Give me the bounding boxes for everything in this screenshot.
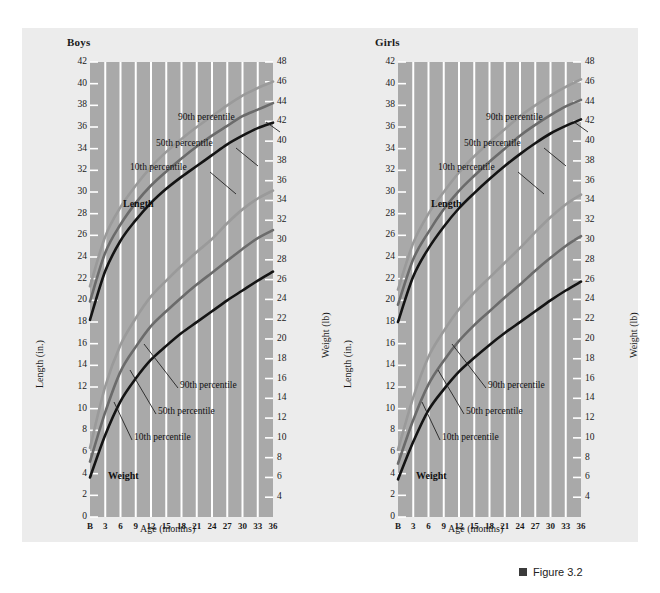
y-tick-left: 20 <box>63 294 87 304</box>
y-tick-right: 38 <box>277 155 301 165</box>
y-tick-right: 12 <box>585 412 609 422</box>
annotation-weight-series: Weight <box>416 470 447 481</box>
y-tick-left: 22 <box>63 273 87 283</box>
y-tick-left: 24 <box>63 251 87 261</box>
figure-caption: Figure 3.2 <box>519 566 583 578</box>
y-tick-right: 30 <box>585 234 609 244</box>
y-tick-left: 14 <box>63 359 87 369</box>
plot-area-boys <box>68 58 295 525</box>
annotation-length-p50: 50th percentile <box>464 138 521 148</box>
y-tick-left: 36 <box>371 121 395 131</box>
y-tick-left: 12 <box>371 381 395 391</box>
y-tick-right: 4 <box>277 491 301 501</box>
y-tick-right: 12 <box>277 412 301 422</box>
y-tick-right: 40 <box>585 135 609 145</box>
y-tick-left: 22 <box>371 273 395 283</box>
plot-svg-boys <box>68 58 295 525</box>
annotation-length-p50: 50th percentile <box>156 138 213 148</box>
y-axis-label-left-girls: Length (in.) <box>342 340 353 388</box>
y-tick-right: 14 <box>277 392 301 402</box>
y-tick-right: 42 <box>277 115 301 125</box>
y-tick-left: 0 <box>371 511 395 521</box>
y-tick-left: 6 <box>371 446 395 456</box>
y-tick-right: 10 <box>277 432 301 442</box>
y-tick-left: 36 <box>63 121 87 131</box>
y-tick-right: 22 <box>585 313 609 323</box>
annotation-length-p90: 90th percentile <box>178 112 235 122</box>
panel-title-girls: Girls <box>375 36 400 48</box>
chart-panel-girls: Girls Length (in.) Weight (lb) Age (mont… <box>330 28 638 542</box>
annotation-length-series: Length <box>123 198 154 209</box>
y-axis-label-right-girls: Weight (lb) <box>628 312 639 358</box>
annotation-length-p10: 10th percentile <box>438 162 495 172</box>
y-tick-left: 10 <box>371 403 395 413</box>
y-tick-right: 18 <box>585 353 609 363</box>
y-tick-left: 18 <box>371 316 395 326</box>
y-tick-left: 38 <box>63 99 87 109</box>
y-tick-left: 42 <box>63 56 87 66</box>
y-tick-right: 20 <box>585 333 609 343</box>
y-tick-right: 30 <box>277 234 301 244</box>
y-tick-right: 16 <box>277 373 301 383</box>
y-tick-right: 24 <box>585 293 609 303</box>
y-tick-left: 20 <box>371 294 395 304</box>
y-tick-left: 28 <box>63 208 87 218</box>
y-tick-right: 48 <box>585 56 609 66</box>
y-tick-right: 44 <box>585 96 609 106</box>
y-tick-right: 46 <box>277 76 301 86</box>
annotation-length-series: Length <box>431 198 462 209</box>
y-tick-left: 38 <box>371 99 395 109</box>
y-tick-left: 2 <box>371 489 395 499</box>
y-tick-left: 26 <box>371 229 395 239</box>
figure-caption-text: Figure 3.2 <box>533 566 583 578</box>
y-tick-right: 36 <box>277 175 301 185</box>
y-tick-right: 36 <box>585 175 609 185</box>
x-tick: 36 <box>263 521 283 531</box>
annotation-weight-p50: 50th percentile <box>466 406 523 416</box>
y-tick-left: 30 <box>63 186 87 196</box>
y-tick-right: 44 <box>277 96 301 106</box>
annotation-weight-p10: 10th percentile <box>134 432 191 442</box>
annotation-weight-series: Weight <box>108 470 139 481</box>
y-tick-left: 26 <box>63 229 87 239</box>
y-tick-left: 40 <box>371 78 395 88</box>
y-tick-left: 24 <box>371 251 395 261</box>
y-tick-left: 40 <box>63 78 87 88</box>
y-tick-left: 32 <box>63 164 87 174</box>
plot-svg-girls <box>376 58 603 525</box>
y-tick-right: 32 <box>277 214 301 224</box>
y-tick-left: 4 <box>63 468 87 478</box>
y-tick-right: 16 <box>585 373 609 383</box>
y-tick-right: 34 <box>585 194 609 204</box>
y-tick-right: 8 <box>277 452 301 462</box>
y-tick-right: 38 <box>585 155 609 165</box>
annotation-weight-p10: 10th percentile <box>442 432 499 442</box>
y-tick-right: 4 <box>585 491 609 501</box>
annotation-weight-p90: 90th percentile <box>180 380 237 390</box>
y-axis-label-left-boys: Length (in.) <box>34 340 45 388</box>
y-tick-right: 6 <box>585 471 609 481</box>
y-tick-right: 6 <box>277 471 301 481</box>
y-tick-left: 16 <box>63 338 87 348</box>
panel-title-boys: Boys <box>67 36 90 48</box>
y-tick-right: 22 <box>277 313 301 323</box>
y-tick-left: 42 <box>371 56 395 66</box>
y-tick-left: 34 <box>63 143 87 153</box>
annotation-length-p10: 10th percentile <box>130 162 187 172</box>
x-tick: 36 <box>571 521 591 531</box>
y-tick-right: 24 <box>277 293 301 303</box>
y-tick-left: 0 <box>63 511 87 521</box>
y-tick-left: 18 <box>63 316 87 326</box>
y-tick-left: 8 <box>63 424 87 434</box>
y-tick-right: 42 <box>585 115 609 125</box>
y-tick-right: 34 <box>277 194 301 204</box>
y-tick-right: 26 <box>277 274 301 284</box>
y-tick-right: 20 <box>277 333 301 343</box>
caption-marker-icon <box>519 568 527 576</box>
y-tick-right: 48 <box>277 56 301 66</box>
y-tick-right: 28 <box>277 254 301 264</box>
y-tick-left: 4 <box>371 468 395 478</box>
annotation-weight-p50: 50th percentile <box>158 406 215 416</box>
y-tick-left: 28 <box>371 208 395 218</box>
annotation-weight-p90: 90th percentile <box>488 380 545 390</box>
